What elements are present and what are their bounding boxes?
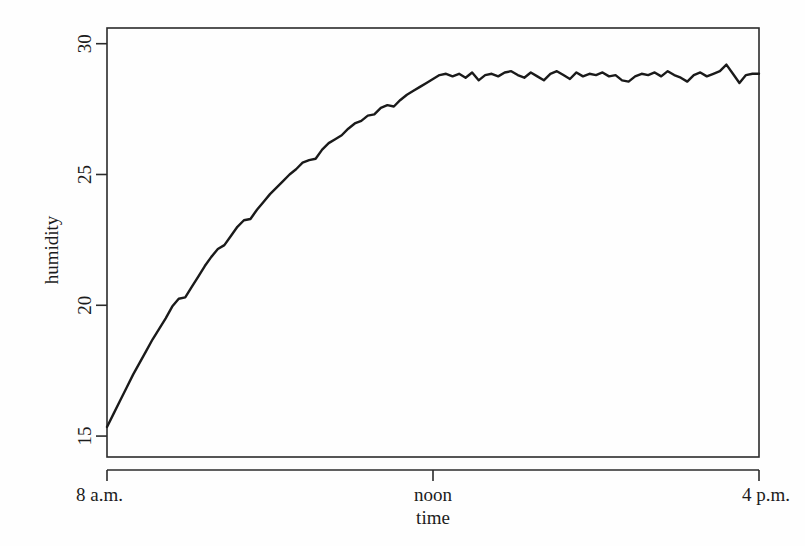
x-tick-label: noon [414,484,453,505]
x-tick-label: 4 p.m. [742,484,790,505]
humidity-line-chart: 15202530 8 a.m.noon4 p.m. time humidity [0,0,805,546]
chart-background [0,0,805,546]
x-axis-title: time [416,507,450,528]
y-tick-label: 25 [75,165,96,184]
y-tick-label: 15 [75,427,96,446]
y-tick-label: 30 [75,34,96,53]
chart-figure: 15202530 8 a.m.noon4 p.m. time humidity [0,0,805,546]
y-axis-title: humidity [41,215,62,284]
x-tick-label: 8 a.m. [76,484,123,505]
y-tick-label: 20 [75,296,96,315]
